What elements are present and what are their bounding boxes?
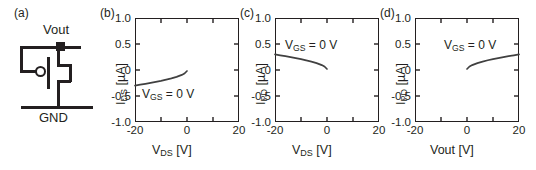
axis-ticks-layer <box>0 0 536 170</box>
figure-root: (a) Vout GND (b) 1.0 0.5 0 -0.5 -1. <box>0 0 536 170</box>
